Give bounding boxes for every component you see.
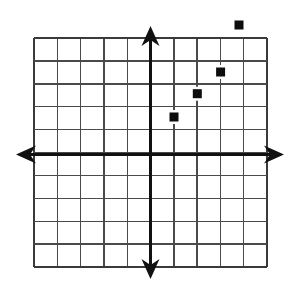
coordinate-plane-figure — [0, 0, 299, 282]
data-point-marker-3[interactable] — [216, 68, 225, 77]
data-points-group — [167, 18, 246, 124]
data-point-marker-4[interactable] — [235, 21, 244, 30]
coordinate-plane-svg — [0, 0, 299, 282]
data-point-marker-1[interactable] — [170, 113, 179, 122]
data-point-marker-2[interactable] — [193, 89, 202, 98]
